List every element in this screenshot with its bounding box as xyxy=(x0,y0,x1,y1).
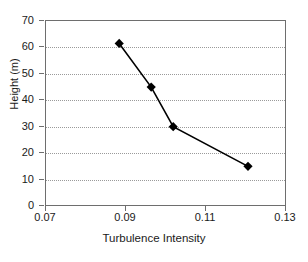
plot-area xyxy=(45,20,286,206)
x-tick-mark-0.13 xyxy=(285,206,286,211)
y-tick-label-50: 50 xyxy=(22,67,34,78)
y-axis: 010203040506070 xyxy=(0,20,40,206)
y-tick-label-10: 10 xyxy=(22,173,34,184)
data-point-marker-3 xyxy=(243,162,252,171)
y-tick-label-70: 70 xyxy=(22,15,34,26)
chart-container: 010203040506070 Height (m) 0.070.090.110… xyxy=(0,0,308,262)
x-tick-label-0.09: 0.09 xyxy=(114,212,135,223)
y-axis-title: Height (m) xyxy=(8,34,20,134)
x-axis-title: Turbulence Intensity xyxy=(0,232,308,244)
x-tick-mark-0.11 xyxy=(205,206,206,211)
x-tick-label-0.13: 0.13 xyxy=(274,212,295,223)
y-tick-label-40: 40 xyxy=(22,94,34,105)
y-tick-label-20: 20 xyxy=(22,147,34,158)
x-tick-label-0.11: 0.11 xyxy=(195,212,216,223)
y-tick-mark-50 xyxy=(39,73,44,74)
y-tick-label-30: 30 xyxy=(22,120,34,131)
x-tick-mark-0.09 xyxy=(125,206,126,211)
y-tick-mark-0 xyxy=(39,205,44,206)
y-tick-mark-40 xyxy=(39,99,44,100)
y-tick-mark-10 xyxy=(39,179,44,180)
data-series-line xyxy=(46,21,287,207)
x-axis: 0.070.090.110.13 xyxy=(0,208,308,228)
y-tick-mark-30 xyxy=(39,126,44,127)
data-point-marker-2 xyxy=(169,122,178,131)
series-line-0 xyxy=(119,43,248,166)
x-tick-mark-0.07 xyxy=(45,206,46,211)
y-tick-mark-60 xyxy=(39,46,44,47)
y-tick-mark-70 xyxy=(39,20,44,21)
y-tick-label-60: 60 xyxy=(22,41,34,52)
x-tick-label-0.07: 0.07 xyxy=(34,212,55,223)
y-tick-mark-20 xyxy=(39,152,44,153)
